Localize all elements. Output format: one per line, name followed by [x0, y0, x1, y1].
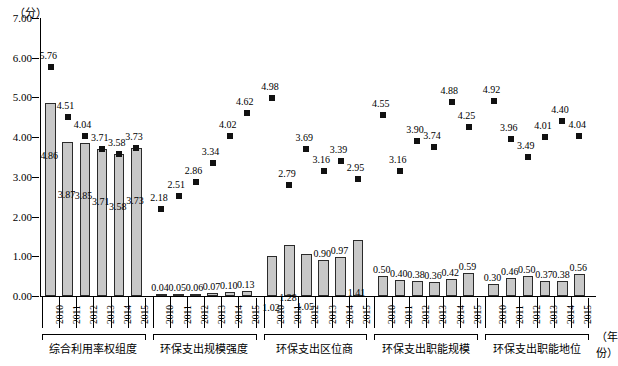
group-bracket-end	[366, 334, 367, 340]
bar	[429, 282, 440, 296]
bar	[488, 284, 499, 296]
group-bracket-end	[588, 334, 589, 340]
data-point-label: 3.34	[202, 147, 220, 157]
data-point-marker	[380, 112, 386, 118]
bar	[463, 273, 474, 296]
bar-value-label: 0.38	[552, 270, 570, 280]
year-separator	[537, 298, 538, 328]
data-point-marker	[65, 114, 71, 120]
bar-value-label: 0.37	[535, 270, 553, 280]
data-point-label: 4.02	[219, 120, 237, 130]
data-point-label: 2.79	[278, 169, 296, 179]
data-point-marker	[158, 206, 164, 212]
year-separator	[76, 298, 77, 328]
data-point-label: 3.96	[500, 123, 518, 133]
bar-value-label: 0.50	[373, 265, 391, 275]
y-axis-tick	[32, 177, 39, 178]
data-point-label: 4.98	[261, 82, 279, 92]
bar-value-label: 0.46	[501, 267, 519, 277]
data-point-marker	[210, 160, 216, 166]
year-separator	[366, 298, 367, 328]
data-point-marker	[227, 133, 233, 139]
data-point-marker	[176, 193, 182, 199]
data-point-label: 2.51	[168, 180, 186, 190]
data-point-marker	[99, 146, 105, 152]
bar	[557, 281, 568, 296]
data-point-label: 5.76	[40, 51, 58, 61]
year-separator	[374, 298, 375, 328]
bar-value-label: 4.86	[41, 151, 59, 161]
year-separator	[238, 298, 239, 328]
year-separator	[315, 298, 316, 328]
y-axis-tick-label: 5.00	[0, 92, 32, 103]
group-bracket	[485, 334, 588, 335]
data-point-marker	[48, 64, 54, 70]
data-point-label: 3.58	[108, 138, 126, 148]
data-point-marker	[133, 145, 139, 151]
data-point-label: 3.69	[295, 133, 313, 143]
year-separator	[170, 298, 171, 328]
data-point-label: 3.71	[91, 133, 109, 143]
data-point-marker	[525, 154, 531, 160]
year-separator	[502, 298, 503, 328]
data-point-marker	[559, 118, 565, 124]
year-separator	[256, 298, 257, 328]
bar	[412, 281, 423, 296]
data-point-label: 4.40	[551, 105, 569, 115]
bar-value-label: 3.58	[109, 202, 127, 212]
bar-value-label: 3.85	[75, 191, 93, 201]
x-axis-line	[40, 296, 596, 297]
data-point-marker	[355, 176, 361, 182]
y-axis-tick	[32, 256, 39, 257]
bar	[540, 281, 551, 296]
bar-value-label: 3.71	[92, 197, 110, 207]
data-point-label: 4.25	[458, 111, 476, 121]
data-point-label: 2.86	[185, 166, 203, 176]
data-point-label: 3.16	[313, 155, 331, 165]
y-axis-tick	[32, 296, 39, 297]
data-point-marker	[414, 138, 420, 144]
data-point-label: 4.55	[372, 99, 390, 109]
year-separator	[426, 298, 427, 328]
bar	[190, 294, 201, 296]
group-bracket	[42, 334, 145, 335]
data-point-marker	[576, 133, 582, 139]
group-bracket	[374, 334, 477, 335]
bar	[242, 291, 253, 296]
y-axis-tick-label: 3.00	[0, 172, 32, 183]
bar	[395, 280, 406, 296]
data-point-marker	[338, 158, 344, 164]
y-axis-tick-label: 7.00	[0, 13, 32, 24]
group-name-label: 环保支出职能地位	[485, 340, 588, 356]
year-separator	[349, 298, 350, 328]
bar-value-label: 3.87	[58, 190, 76, 200]
data-point-marker	[397, 168, 403, 174]
bar-value-label: 0.30	[484, 273, 502, 283]
data-point-marker	[491, 98, 497, 104]
data-point-label: 3.39	[330, 145, 348, 155]
data-point-marker	[431, 144, 437, 150]
year-separator	[519, 298, 520, 328]
year-separator	[392, 298, 393, 328]
year-separator	[187, 298, 188, 328]
plot-area: 0.001.002.003.004.005.006.007.004.865.76…	[40, 18, 596, 296]
year-separator	[264, 298, 265, 328]
year-separator	[477, 298, 478, 328]
year-separator	[460, 298, 461, 328]
bar-value-label: 0.59	[459, 262, 477, 272]
bar	[301, 254, 312, 296]
data-point-marker	[82, 133, 88, 139]
bar	[523, 276, 534, 296]
bar-value-label: 0.38	[407, 270, 425, 280]
year-separator	[128, 298, 129, 328]
data-point-label: 4.62	[236, 97, 254, 107]
bar-value-label: 0.07	[203, 282, 221, 292]
bar	[173, 294, 184, 296]
data-point-label: 4.88	[441, 86, 459, 96]
group-name-label: 环保支出区位商	[264, 340, 367, 356]
group-bracket	[264, 334, 367, 335]
bar	[62, 142, 73, 296]
year-separator	[281, 298, 282, 328]
bar	[378, 276, 389, 296]
